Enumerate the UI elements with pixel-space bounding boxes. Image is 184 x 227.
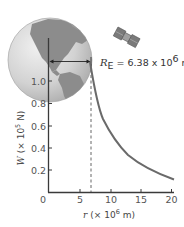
y-tick-label: 0.8 (31, 98, 46, 109)
y-axis-title: W (× 105 N) (14, 111, 26, 166)
y-tick-label: 0.6 (31, 121, 46, 132)
y-tick-label: 0.2 (31, 165, 46, 176)
y-tick-label: 1.0 (31, 76, 46, 87)
x-ticks (80, 189, 172, 192)
weight-curve (90, 62, 174, 180)
satellite-icon (113, 27, 140, 48)
x-tick-label: 5 (77, 194, 83, 205)
x-tick-label: 0 (40, 194, 46, 205)
x-tick-labels: 0 5 10 15 20 (40, 194, 178, 205)
x-tick-label: 15 (135, 194, 147, 205)
y-tick-label: 0.4 (31, 143, 46, 154)
x-axis-title: r (× 106 m) (83, 208, 135, 220)
earth-radius-label: RE = 6.38 x 106 m (99, 53, 184, 71)
weight-vs-radius-chart: 0 5 10 15 20 0.2 0.4 0.6 0.8 1.0 RE = 6.… (0, 0, 184, 227)
x-tick-label: 10 (105, 194, 117, 205)
earth-globe-icon (8, 18, 92, 104)
x-tick-label: 20 (165, 194, 177, 205)
